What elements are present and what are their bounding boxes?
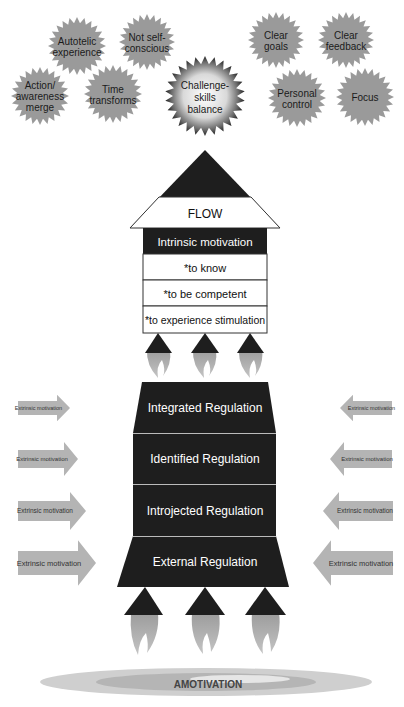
rocket-nose: FLOW (130, 150, 280, 228)
regulation-label: Introjected Regulation (147, 504, 264, 518)
intrinsic-motivation-stack: Intrinsic motivation *to know *to be com… (143, 228, 267, 333)
thruster-nozzle (237, 333, 264, 353)
badge-label: awareness (16, 91, 64, 102)
rocket-body: Integrated Regulation Identified Regulat… (117, 382, 289, 587)
intrinsic-item-label: *to be competent (163, 288, 246, 300)
badge-clear-goals: Cleargoals (248, 12, 304, 68)
extrinsic-arrow-right: Extrinsic motivation (16, 442, 78, 476)
amotivation-label: AMOTIVATION (174, 679, 243, 690)
extrinsic-arrow-right: Extrinsic motivation (17, 540, 96, 586)
intrinsic-item-label: *to know (184, 262, 226, 274)
center-badge-label: Challenge- (181, 80, 229, 91)
badge-label: Action/ (25, 80, 56, 91)
center-badge-label: skills (194, 92, 216, 103)
badge-label: control (282, 99, 312, 110)
flame-icon (252, 613, 280, 654)
extrinsic-arrow-label: Extrinsic motivation (17, 559, 82, 568)
badge-focus: Focus (336, 68, 394, 126)
badge-clear-feedback: Clearfeedback (318, 12, 374, 68)
thruster (245, 587, 286, 654)
flame-icon (147, 350, 170, 378)
amotivation-disc: AMOTIVATION (40, 668, 372, 696)
extrinsic-arrow-label: Extrinsic motivation (16, 456, 68, 462)
thruster-nozzle (245, 587, 286, 615)
thruster (124, 587, 163, 655)
thruster-nozzle (191, 333, 219, 353)
extrinsic-arrow-label: Extrinsic motivation (348, 405, 395, 411)
extrinsic-arrow-left: Extrinsic motivation (340, 395, 395, 422)
flame-icon (239, 350, 262, 378)
flame-icon (131, 613, 159, 655)
challenge-skills-balance-badge: Challenge-skillsbalance (165, 56, 244, 136)
badge-label: Clear (264, 30, 289, 41)
badge-label: merge (26, 102, 55, 113)
extrinsic-arrow-label: Extrinsic motivation (329, 559, 394, 568)
badge-label: Focus (351, 92, 378, 103)
thruster-nozzle (185, 587, 225, 615)
thruster-nozzle (145, 333, 172, 353)
flame-icon (192, 613, 220, 654)
thruster (191, 333, 219, 378)
badge-not-self-conscious: Not self-conscious (119, 14, 175, 70)
thruster-nozzle (124, 587, 163, 615)
badge-time-transforms: Timetransforms (84, 65, 142, 123)
badge-label: transforms (89, 95, 136, 106)
center-badge-label: balance (187, 104, 222, 115)
extrinsic-arrow-right: Extrinsic motivation (17, 492, 86, 530)
thruster (185, 587, 225, 654)
thruster (237, 333, 264, 378)
flow-label: FLOW (188, 207, 223, 221)
badge-label: Not self- (128, 32, 165, 43)
regulation-label: Integrated Regulation (148, 401, 263, 415)
badge-label: Autotelic (58, 36, 96, 47)
regulation-label: External Regulation (153, 555, 258, 569)
badge-autotelic: Autotelicexperience (48, 17, 106, 75)
extrinsic-arrow-left: Extrinsic motivation (313, 540, 393, 586)
badge-label: Clear (334, 30, 359, 41)
badge-action-awareness: Action/awarenessmerge (11, 67, 69, 125)
badge-personal-control: Personalcontrol (268, 69, 326, 127)
lower-thrusters (124, 587, 286, 655)
extrinsic-arrow-label: Extrinsic motivation (341, 456, 393, 462)
badge-label: Personal (277, 88, 316, 99)
thruster (145, 333, 172, 378)
extrinsic-arrow-label: Extrinsic motivation (15, 405, 62, 411)
badge-label: feedback (326, 41, 368, 52)
regulation-label: Identified Regulation (150, 452, 259, 466)
intrinsic-header-label: Intrinsic motivation (157, 236, 252, 248)
extrinsic-arrow-right: Extrinsic motivation (15, 395, 70, 422)
flow-rocket-diagram: AutotelicexperienceNot self-consciousCle… (0, 0, 404, 707)
badge-label: conscious (125, 43, 169, 54)
upper-thrusters (145, 333, 264, 378)
badge-label: goals (264, 41, 288, 52)
extrinsic-arrow-left: Extrinsic motivation (323, 492, 393, 530)
badge-label: Time (102, 84, 124, 95)
extrinsic-arrow-label: Extrinsic motivation (17, 507, 73, 514)
extrinsic-arrow-left: Extrinsic motivation (330, 442, 393, 476)
flame-icon (193, 350, 216, 378)
extrinsic-arrow-label: Extrinsic motivation (337, 507, 393, 514)
badge-label: experience (53, 47, 102, 58)
intrinsic-item-label: *to experience stimulation (145, 314, 265, 326)
